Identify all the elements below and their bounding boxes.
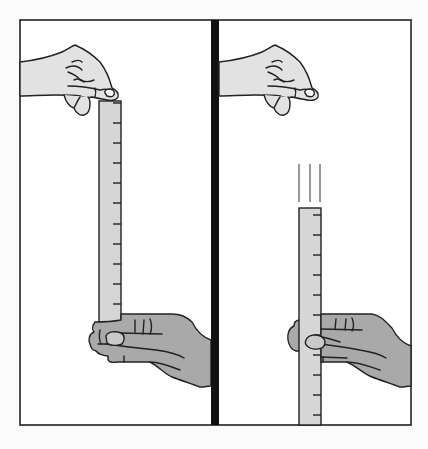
ruler-right [299, 208, 321, 425]
ruler-left [99, 101, 121, 333]
ruler-drop-figure [0, 0, 428, 449]
panel-divider [211, 20, 219, 425]
